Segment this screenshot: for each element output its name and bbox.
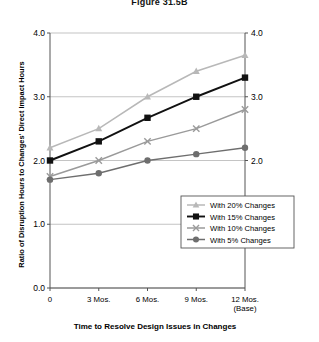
data-series: [47, 52, 249, 183]
x-axis-tick-labels: 03 Mos.6 Mos.9 Mos.12 Mos.(Base): [48, 288, 259, 313]
legend-label: With 5% Changes: [210, 236, 271, 245]
data-point-circle-marker: [96, 170, 102, 176]
legend-label: With 10% Changes: [210, 224, 275, 233]
data-point-circle-marker: [242, 145, 248, 151]
data-point-circle-marker: [144, 157, 150, 163]
data-point-square-marker: [193, 94, 199, 100]
x-tick-sublabel: (Base): [234, 304, 257, 313]
data-point-square-marker: [47, 157, 53, 163]
legend-label: With 15% Changes: [210, 213, 275, 222]
series-1: [47, 74, 248, 163]
y-tick-label: 0.0: [33, 283, 45, 293]
data-point-circle-marker: [47, 176, 53, 182]
x-tick-label: 12 Mos.: [231, 295, 259, 304]
y-tick-label: 3.0: [33, 92, 45, 102]
series-line: [50, 55, 245, 147]
data-point-square-marker: [193, 213, 199, 219]
x-tick-label: 0: [48, 295, 53, 304]
right-axis-tick-labels: 2.03.04.0: [245, 28, 263, 166]
data-point-square-marker: [242, 74, 248, 80]
chart-plot: 0.01.02.03.04.0 2.03.04.0 03 Mos.6 Mos.9…: [0, 0, 319, 342]
data-point-circle-marker: [193, 236, 199, 242]
data-point-square-marker: [96, 138, 102, 144]
right-tick-label: 4.0: [251, 28, 263, 38]
data-point-square-marker: [144, 115, 150, 121]
x-tick-label: 6 Mos.: [136, 295, 159, 304]
y-tick-label: 1.0: [33, 219, 45, 229]
series-0: [47, 52, 249, 151]
data-point-circle-marker: [193, 151, 199, 157]
right-tick-label: 3.0: [251, 92, 263, 102]
x-tick-label: 9 Mos.: [185, 295, 208, 304]
data-point-triangle-marker: [95, 125, 102, 132]
chart-legend[interactable]: With 20% ChangesWith 15% ChangesWith 10%…: [181, 196, 294, 248]
y-tick-label: 4.0: [33, 28, 45, 38]
legend-label: With 20% Changes: [210, 201, 275, 210]
figure-container: Figure 31.5B Ratio of Disruption Hours t…: [0, 0, 319, 342]
data-point-triangle-marker: [242, 52, 249, 59]
y-tick-label: 2.0: [33, 156, 45, 166]
x-tick-label: 3 Mos.: [87, 295, 110, 304]
right-tick-label: 2.0: [251, 156, 263, 166]
